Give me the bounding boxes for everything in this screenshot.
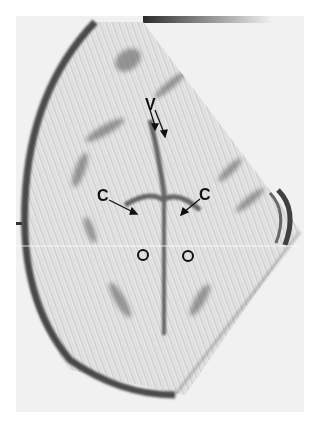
marker-circle-left bbox=[137, 249, 149, 261]
label-v: V bbox=[145, 96, 156, 114]
ultrasound-scan bbox=[0, 0, 320, 428]
marker-circle-right bbox=[182, 250, 194, 262]
label-c-right: C bbox=[199, 186, 211, 204]
label-c-left: C bbox=[97, 187, 109, 205]
